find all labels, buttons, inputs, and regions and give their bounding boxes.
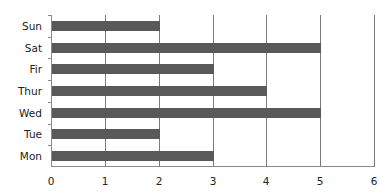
bar-mon [52, 151, 214, 161]
x-tick-label: 0 [41, 175, 61, 187]
y-tick [48, 80, 51, 81]
y-category-label: Sun [0, 20, 42, 32]
bar-fir [52, 64, 214, 74]
x-tick-label: 1 [95, 175, 115, 187]
x-tick-label: 2 [149, 175, 169, 187]
x-tick-label: 4 [256, 175, 276, 187]
gridline [374, 15, 375, 167]
x-tick-label: 6 [364, 175, 384, 187]
y-tick [48, 58, 51, 59]
y-tick [48, 124, 51, 125]
y-category-label: Sat [0, 42, 42, 54]
y-category-label: Fir [0, 63, 42, 75]
x-tick-label: 5 [310, 175, 330, 187]
bar-wed [52, 108, 321, 118]
y-category-label: Wed [0, 107, 42, 119]
y-category-label: Mon [0, 150, 42, 162]
y-tick [48, 102, 51, 103]
y-category-label: Thur [0, 85, 42, 97]
bar-tue [52, 129, 160, 139]
bar-sat [52, 43, 321, 53]
gridline [320, 15, 321, 167]
bar-thur [52, 86, 267, 96]
x-tick-label: 3 [203, 175, 223, 187]
y-category-label: Tue [0, 128, 42, 140]
bar-chart: SunSatFirThurWedTueMon 0123456 [0, 0, 387, 195]
y-tick [48, 15, 51, 16]
bar-sun [52, 21, 160, 31]
y-tick [48, 37, 51, 38]
y-tick [48, 145, 51, 146]
x-axis-line [51, 166, 374, 167]
